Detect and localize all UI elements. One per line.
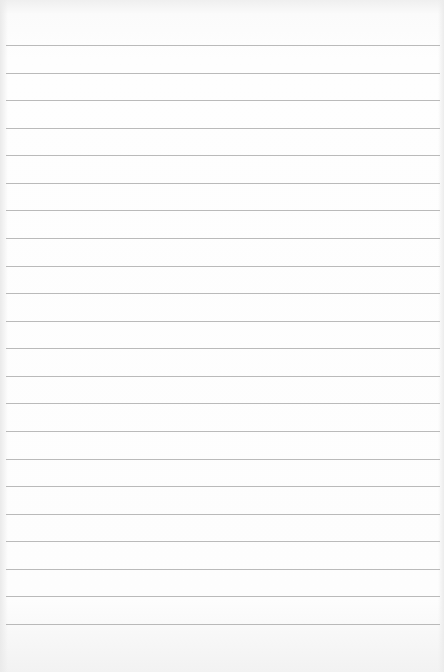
ruled-line	[6, 541, 440, 542]
ruled-line	[6, 155, 440, 156]
ruled-line	[6, 238, 440, 239]
ruled-line	[6, 569, 440, 570]
ruled-line	[6, 183, 440, 184]
ruled-line	[6, 403, 440, 404]
ruled-line	[6, 376, 440, 377]
ruled-line	[6, 486, 440, 487]
ruled-line	[6, 293, 440, 294]
ruled-line	[6, 348, 440, 349]
ruled-line	[6, 459, 440, 460]
ruled-line	[6, 431, 440, 432]
ruled-line	[6, 128, 440, 129]
ruled-line	[6, 321, 440, 322]
ruled-line	[6, 514, 440, 515]
ruled-line	[6, 45, 440, 46]
ruled-line	[6, 73, 440, 74]
ruled-line	[6, 266, 440, 267]
ruled-line	[6, 596, 440, 597]
ruled-line	[6, 624, 440, 625]
ruled-line	[6, 100, 440, 101]
ruled-line	[6, 210, 440, 211]
lined-paper	[0, 0, 444, 672]
